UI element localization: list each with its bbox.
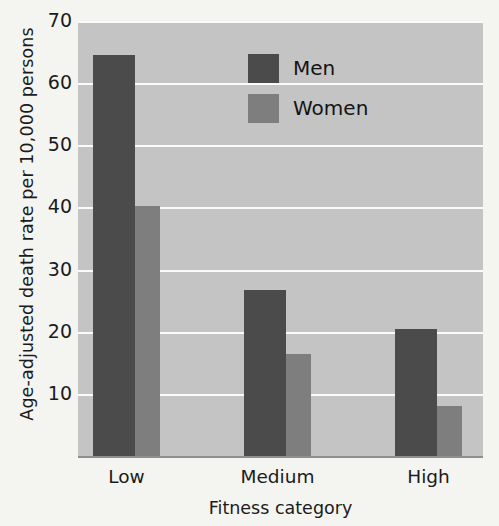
y-tick-label-20: 20 (26, 322, 72, 341)
legend-swatch-women (248, 94, 279, 123)
x-axis-line (78, 456, 483, 458)
bar-chart: Age-adjusted death rate per 10,000 perso… (0, 0, 499, 526)
chart-legend: MenWomen (248, 48, 368, 128)
gridline-50 (78, 145, 483, 147)
y-tick-label-30: 30 (26, 260, 72, 279)
bar-medium-men (244, 290, 286, 456)
x-tick-label-low: Low (67, 468, 187, 487)
bar-low-men (93, 55, 135, 456)
legend-label-women: Women (293, 98, 368, 118)
y-tick-label-70: 70 (26, 11, 72, 30)
legend-swatch-men (248, 54, 279, 83)
y-tick-label-50: 50 (26, 135, 72, 154)
legend-item-women: Women (248, 88, 368, 128)
y-tick-label-40: 40 (26, 197, 72, 216)
bar-low-women (135, 206, 160, 456)
y-axis-tick-labels: 10203040506070 (22, 0, 72, 526)
legend-item-men: Men (248, 48, 368, 88)
gridline-70 (78, 21, 483, 23)
bar-medium-women (286, 354, 311, 456)
y-tick-label-10: 10 (26, 384, 72, 403)
x-axis-title: Fitness category (78, 500, 483, 518)
x-tick-label-high: High (369, 468, 489, 487)
x-tick-label-medium: Medium (218, 468, 338, 487)
bar-high-men (395, 329, 437, 456)
bar-high-women (437, 406, 462, 456)
y-tick-label-60: 60 (26, 73, 72, 92)
legend-label-men: Men (293, 58, 335, 78)
